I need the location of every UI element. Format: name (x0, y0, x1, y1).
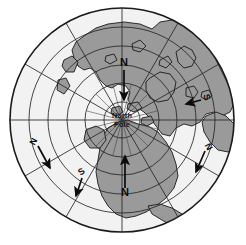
north-pole-label-line2: Pole (114, 120, 130, 129)
compass-north-top-letter: N (120, 56, 128, 68)
north-pole-label: North Pole (112, 111, 132, 129)
north-pole-label-line1: North (112, 111, 132, 120)
landmass-south-america-tip (184, 218, 212, 240)
polar-map-svg: North Pole N N N N S S (0, 0, 246, 245)
map-figure: North Pole N N N N S S (0, 0, 246, 245)
